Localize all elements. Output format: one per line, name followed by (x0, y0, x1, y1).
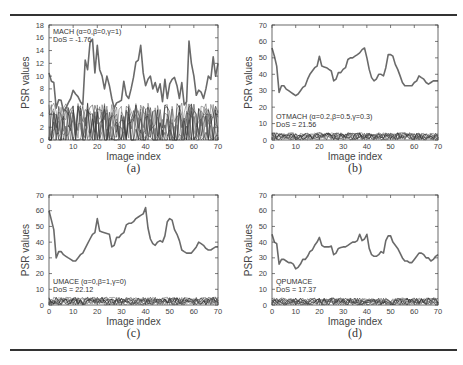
x-tick-label: 20 (315, 142, 323, 151)
impostor-curves (272, 133, 438, 140)
x-tick-label: 50 (386, 142, 394, 151)
y-tick-label: 14 (36, 46, 44, 55)
chart-panel-a: 010203040506070024681012141618Image inde… (20, 21, 222, 175)
legend-text: DoS = -1.76 (53, 35, 92, 44)
authentic-curve (49, 39, 218, 111)
y-tick-label: 50 (36, 222, 44, 231)
y-tick-label: 30 (259, 86, 267, 95)
impostor-curves (49, 297, 218, 305)
x-tick-label: 40 (363, 142, 371, 151)
y-tick-label: 0 (40, 136, 44, 145)
figure-canvas: 010203040506070024681012141618Image inde… (0, 0, 463, 365)
y-tick-label: 20 (259, 269, 267, 278)
y-tick-label: 4 (40, 110, 44, 119)
chart-panel-c: 010203040506070010203040506070Image inde… (20, 191, 222, 340)
x-tick-label: 10 (69, 307, 77, 316)
x-tick-label: 70 (434, 307, 442, 316)
legend-text: DoS = 22.12 (53, 285, 93, 294)
y-tick-label: 2 (40, 123, 44, 132)
y-tick-label: 70 (36, 191, 44, 200)
x-tick-label: 70 (214, 142, 222, 151)
chart-panel-d: 010203040506070010203040506070Image inde… (243, 191, 442, 340)
y-tick-label: 10 (259, 285, 267, 294)
x-tick-label: 70 (434, 142, 442, 151)
y-tick-label: 50 (259, 222, 267, 231)
legend-text: DoS = 21.56 (276, 120, 316, 129)
y-tick-label: 20 (259, 103, 267, 112)
x-tick-label: 10 (292, 307, 300, 316)
x-tick-label: 30 (117, 142, 125, 151)
subfigure-caption: (b) (348, 161, 362, 175)
x-tick-label: 30 (117, 307, 125, 316)
x-tick-label: 10 (69, 142, 77, 151)
y-axis-label: PSR values (20, 56, 31, 108)
y-tick-label: 70 (259, 21, 267, 30)
x-tick-label: 30 (339, 307, 347, 316)
authentic-curve (272, 234, 438, 269)
y-tick-label: 30 (36, 253, 44, 262)
x-tick-label: 20 (93, 307, 101, 316)
x-tick-label: 10 (292, 142, 300, 151)
legend-text: DoS = 17.37 (276, 285, 316, 294)
subfigure-caption: (c) (127, 326, 140, 340)
x-tick-label: 20 (93, 142, 101, 151)
x-tick-label: 60 (190, 142, 198, 151)
y-tick-label: 12 (36, 59, 44, 68)
x-tick-label: 70 (214, 307, 222, 316)
x-tick-label: 50 (386, 307, 394, 316)
y-axis-label: PSR values (243, 56, 254, 108)
y-tick-label: 0 (263, 301, 267, 310)
subfigure-caption: (a) (127, 161, 140, 175)
y-tick-label: 60 (36, 206, 44, 215)
x-tick-label: 50 (166, 307, 174, 316)
impostor-curves (49, 103, 218, 140)
y-tick-label: 30 (259, 253, 267, 262)
x-tick-label: 20 (315, 307, 323, 316)
y-tick-label: 60 (259, 37, 267, 46)
y-tick-label: 16 (36, 33, 44, 42)
x-tick-label: 0 (270, 142, 274, 151)
x-tick-label: 40 (141, 307, 149, 316)
y-tick-label: 70 (259, 191, 267, 200)
authentic-curve (272, 48, 438, 96)
y-tick-label: 60 (259, 206, 267, 215)
x-tick-label: 30 (339, 142, 347, 151)
y-tick-label: 18 (36, 21, 44, 30)
x-tick-label: 40 (141, 142, 149, 151)
chart-panel-b: 010203040506070010203040506070Image inde… (243, 21, 442, 175)
y-tick-label: 0 (263, 136, 267, 145)
y-tick-label: 6 (40, 97, 44, 106)
x-tick-label: 0 (47, 142, 51, 151)
x-tick-label: 60 (190, 307, 198, 316)
y-tick-label: 50 (259, 53, 267, 62)
y-tick-label: 40 (36, 238, 44, 247)
x-tick-label: 60 (410, 142, 418, 151)
y-axis-label: PSR values (243, 224, 254, 276)
subfigure-caption: (d) (348, 326, 362, 340)
x-tick-label: 0 (47, 307, 51, 316)
y-tick-label: 40 (259, 238, 267, 247)
y-tick-label: 40 (259, 70, 267, 79)
authentic-curve (49, 208, 218, 261)
y-tick-label: 10 (36, 72, 44, 81)
x-tick-label: 0 (270, 307, 274, 316)
x-tick-label: 60 (410, 307, 418, 316)
y-tick-label: 10 (36, 285, 44, 294)
y-tick-label: 8 (40, 84, 44, 93)
x-tick-label: 50 (166, 142, 174, 151)
y-tick-label: 0 (40, 301, 44, 310)
x-tick-label: 40 (363, 307, 371, 316)
y-tick-label: 10 (259, 119, 267, 128)
y-axis-label: PSR values (20, 224, 31, 276)
impostor-curves (272, 298, 438, 305)
y-tick-label: 20 (36, 269, 44, 278)
